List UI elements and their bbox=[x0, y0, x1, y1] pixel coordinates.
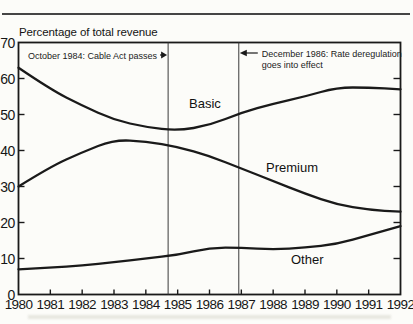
x-tick-label: 1986 bbox=[196, 297, 224, 312]
x-tick-label: 1991 bbox=[355, 297, 383, 312]
series-label-premium: Premium bbox=[266, 160, 318, 175]
x-tick-label: 1984 bbox=[132, 297, 161, 312]
y-tick-label: 70 bbox=[0, 35, 15, 51]
plot-border bbox=[19, 43, 401, 295]
y-tick-label: 60 bbox=[0, 71, 15, 87]
annotation-text: goes into effect bbox=[262, 60, 323, 70]
x-tick-label: 1983 bbox=[100, 297, 128, 312]
y-tick-label: 20 bbox=[0, 215, 15, 231]
line-chart: 0102030405060701980198119821983198419851… bbox=[0, 0, 413, 324]
series-label-other: Other bbox=[291, 252, 324, 267]
x-tick-label: 1989 bbox=[291, 297, 319, 312]
x-tick-label: 1988 bbox=[259, 297, 287, 312]
x-tick-label: 1985 bbox=[164, 297, 192, 312]
arrow-left-icon bbox=[240, 50, 247, 56]
y-tick-label: 30 bbox=[0, 179, 15, 195]
arrow-right-icon bbox=[161, 52, 167, 59]
x-tick-label: 1982 bbox=[68, 297, 96, 312]
series-line-other bbox=[19, 226, 401, 269]
annotation-text: December 1986: Rate deregulation bbox=[262, 49, 402, 59]
x-tick-label: 1990 bbox=[323, 297, 351, 312]
y-tick-label: 40 bbox=[0, 143, 15, 159]
series-label-basic: Basic bbox=[189, 96, 221, 111]
x-tick-label: 1980 bbox=[5, 297, 33, 312]
y-tick-label: 10 bbox=[0, 251, 15, 267]
scan-artifact bbox=[28, 315, 391, 319]
series-line-premium bbox=[19, 140, 401, 211]
x-tick-label: 1987 bbox=[228, 297, 256, 312]
x-tick-label: 1992 bbox=[387, 297, 413, 312]
annotation-text: October 1984: Cable Act passes bbox=[28, 51, 158, 61]
x-tick-label: 1981 bbox=[37, 297, 65, 312]
y-tick-label: 50 bbox=[0, 107, 15, 123]
